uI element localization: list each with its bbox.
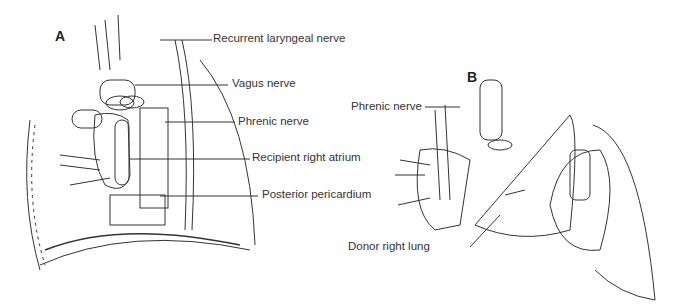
panel-letter-a: A — [55, 28, 65, 44]
label-vagus-nerve: Vagus nerve — [232, 77, 296, 89]
label-donor-right-lung: Donor right lung — [348, 240, 430, 252]
panel-a-drawing — [27, 15, 255, 270]
label-recurrent-laryngeal-nerve: Recurrent laryngeal nerve — [213, 32, 345, 44]
label-recipient-right-atrium: Recipient right atrium — [252, 151, 361, 163]
panel-letter-b: B — [467, 69, 477, 85]
label-phrenic-nerve-a: Phrenic nerve — [238, 115, 309, 127]
label-phrenic-nerve-b: Phrenic nerve — [351, 100, 422, 112]
label-posterior-pericardium: Posterior pericardium — [262, 188, 371, 200]
